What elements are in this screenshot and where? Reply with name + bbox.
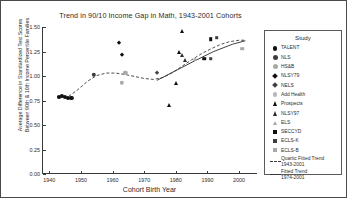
- legend-item-label: Prospects: [281, 101, 303, 106]
- legend-item-label: ECLS-B: [281, 148, 299, 153]
- plot-area: 0.000.250.500.751.001.251.50 19401950196…: [42, 27, 257, 174]
- data-point-seccyd: [202, 57, 206, 61]
- data-point-prospects: [180, 29, 184, 33]
- legend-title: Study: [265, 34, 341, 41]
- x-tick-label: 1960: [107, 173, 119, 183]
- legend-item-label: Add Health: [281, 92, 305, 97]
- legend-item-dashed-trend[interactable]: Quartic Fitted Trend1943-2001: [265, 155, 341, 168]
- x-tick-label: 2000: [233, 173, 245, 183]
- y-tick-label: 1.50: [30, 24, 44, 30]
- legend-item-label: NLSY79: [281, 73, 299, 78]
- legend-item-solid-trend[interactable]: Fitted Trend1974-2001: [265, 168, 341, 181]
- legend-item-label: ELS: [281, 120, 290, 125]
- data-point-prospects: [167, 103, 171, 107]
- data-point-nlsy97: [180, 53, 184, 57]
- legend-item-add-health[interactable]: Add Health: [265, 90, 341, 99]
- legend-item-label: NELS: [281, 83, 294, 88]
- data-point-talent: [69, 96, 73, 100]
- data-point-hs-b: [123, 71, 127, 75]
- legend-item-label: TALENT: [281, 45, 299, 50]
- legend-item-label: Fitted Trend: [281, 169, 307, 174]
- data-point-ecls-k: [209, 57, 213, 61]
- y-tick-label: 0.50: [30, 122, 44, 128]
- data-point-ecls-k: [215, 36, 219, 40]
- y-tick-label: 1.00: [30, 73, 44, 79]
- data-point-prospects: [174, 81, 178, 85]
- chart-figure: Trend in 90/10 Income Gap in Math, 1943-…: [0, 0, 347, 198]
- data-point-nlsy97: [183, 58, 187, 62]
- legend-item-label: SECCYD: [281, 129, 301, 134]
- legend-marker-icon: [269, 139, 281, 143]
- page-title: Trend in 90/10 Income Gap in Math, 1943-…: [43, 11, 258, 20]
- legend-line-icon: [269, 174, 281, 175]
- legend-item-label: NLS: [281, 55, 291, 60]
- legend-item-label: ECLS-K: [281, 138, 299, 143]
- legend-marker-icon: [269, 121, 281, 125]
- data-point-nels: [154, 71, 159, 76]
- legend-marker-icon: [269, 64, 281, 69]
- legend-item-sublabel: 1974-2001: [281, 175, 307, 180]
- legend-item-talent[interactable]: TALENT: [265, 44, 341, 53]
- data-point-nlsy79: [116, 41, 121, 46]
- legend-item-els[interactable]: ELS: [265, 118, 341, 127]
- legend-marker-icon: [269, 46, 281, 51]
- legend-item-sublabel: 1943-2001: [281, 162, 324, 167]
- legend: Study TALENTNLSHS&BNLSY79NELSAdd HealthP…: [264, 30, 342, 175]
- y-tick-label: 1.25: [30, 49, 44, 55]
- legend-trendline-list: Quartic Fitted Trend1943-2001Fitted Tren…: [265, 155, 341, 181]
- x-axis-label: Cohort Birth Year: [42, 186, 257, 193]
- x-tick-label: 1990: [201, 173, 213, 183]
- legend-series-list: TALENTNLSHS&BNLSY79NELSAdd HealthProspec…: [265, 44, 341, 156]
- x-tick-label: 1940: [43, 173, 55, 183]
- x-tick-label: 1950: [75, 173, 87, 183]
- legend-marker-icon: [269, 55, 281, 60]
- legend-marker-icon: [269, 74, 281, 78]
- legend-item-nls[interactable]: NLS: [265, 53, 341, 62]
- legend-item-ecls-b[interactable]: ECLS-B: [265, 146, 341, 155]
- legend-line-icon: [269, 161, 281, 162]
- data-point-els: [193, 57, 197, 61]
- x-tick-label: 1980: [170, 173, 182, 183]
- legend-item-nlsy97[interactable]: NLSY97: [265, 109, 341, 118]
- data-point-hs-b: [120, 81, 124, 85]
- y-tick-label: 0.00: [30, 171, 44, 177]
- legend-item-label: NLSY97: [281, 111, 299, 116]
- data-point-nlsy79: [120, 53, 125, 58]
- data-point-seccyd: [209, 37, 213, 41]
- y-tick-label: 0.25: [30, 147, 44, 153]
- y-axis-label-line-1: Average Difference in Standardized Test …: [17, 0, 24, 150]
- legend-marker-icon: [269, 130, 281, 134]
- legend-item-nels[interactable]: NELS: [265, 81, 341, 90]
- legend-marker-icon: [269, 92, 281, 97]
- legend-item-seccyd[interactable]: SECCYD: [265, 127, 341, 136]
- data-point-ecls-b: [240, 47, 244, 51]
- data-markers-layer: [43, 27, 257, 173]
- legend-item-label: HS&B: [281, 64, 294, 69]
- legend-marker-icon: [269, 83, 281, 87]
- legend-item-prospects[interactable]: Prospects: [265, 99, 341, 108]
- legend-item-label: Quartic Fitted Trend: [281, 156, 324, 161]
- legend-item-nlsy79[interactable]: NLSY79: [265, 71, 341, 80]
- legend-item-hs-b[interactable]: HS&B: [265, 62, 341, 71]
- data-point-nls: [91, 73, 95, 77]
- x-tick-label: 1970: [138, 173, 150, 183]
- legend-marker-icon: [269, 101, 281, 106]
- legend-marker-icon: [269, 148, 281, 152]
- legend-item-ecls-k[interactable]: ECLS-K: [265, 136, 341, 145]
- legend-marker-icon: [269, 111, 281, 116]
- y-tick-label: 0.75: [30, 98, 44, 104]
